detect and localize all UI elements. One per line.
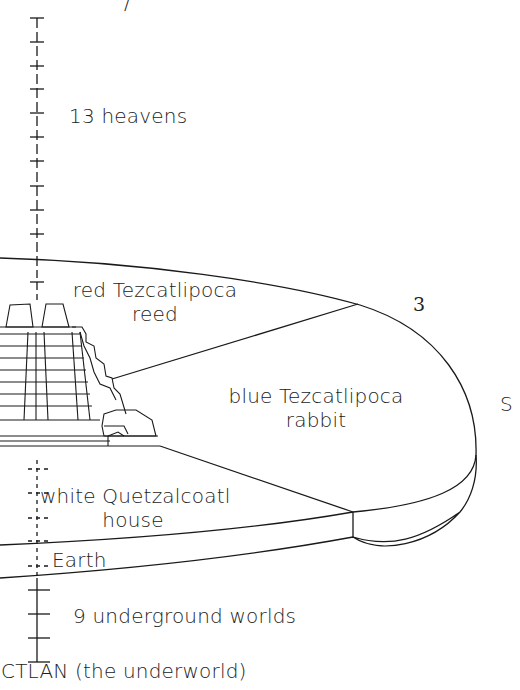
heavens-axis: [30, 18, 44, 300]
label-south-blue-tezcatlipoca: blue Tezcatlipoca rabbit: [226, 384, 406, 432]
top-glyph: /: [124, 0, 131, 14]
marker-s: S: [500, 392, 513, 416]
label-south-line2: rabbit: [226, 408, 406, 432]
label-east-line1: red Tezcatlipoca: [70, 278, 240, 302]
label-west-line1: white Quetzalcoatl: [40, 484, 226, 508]
label-9-underground-worlds: 9 underground worlds: [73, 604, 296, 628]
underground-axis: [28, 578, 50, 662]
label-south-line1: blue Tezcatlipoca: [226, 384, 406, 408]
label-east-red-tezcatlipoca: red Tezcatlipoca reed: [70, 278, 240, 326]
label-earth: Earth: [52, 548, 107, 572]
label-west-line2: house: [40, 508, 226, 532]
label-underworld: CTLAN (the underworld): [1, 659, 247, 683]
label-west-white-quetzalcoatl: white Quetzalcoatl house: [40, 484, 226, 532]
marker-3: 3: [413, 292, 425, 316]
label-east-line2: reed: [70, 302, 240, 326]
label-13-heavens: 13 heavens: [69, 104, 187, 128]
